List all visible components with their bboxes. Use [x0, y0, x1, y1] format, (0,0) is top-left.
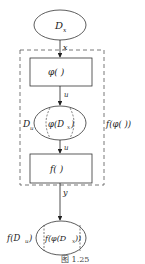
phi-dx-label: φ(D	[48, 119, 64, 129]
set-du-label: D	[22, 119, 30, 129]
f-phi-dx-label: f(φ(D	[44, 234, 67, 243]
edge-x-label: x	[63, 43, 68, 52]
f-du-label: f(D	[6, 233, 20, 243]
phi-dx-close: )	[70, 119, 74, 129]
set-du: D u φ(D x )	[22, 106, 86, 140]
f-du-close: )	[28, 233, 32, 243]
composition-diagram: D x x φ( ) u D u φ(D x ) u f( ) f(φ( )) …	[0, 0, 145, 264]
figure-caption: 图 1.25	[61, 255, 89, 264]
set-du-subscript: u	[30, 125, 34, 131]
edge-u2-label: u	[64, 144, 69, 152]
f-box: f( )	[30, 154, 92, 183]
set-dx: D x	[34, 10, 86, 40]
composite-label: f(φ( ))	[105, 119, 131, 129]
edge-u1-label: u	[64, 91, 69, 99]
phi-box-label: φ( )	[48, 67, 65, 77]
set-f-du: f(D u ) f(φ(D x ))	[6, 221, 86, 255]
set-dx-subscript: x	[63, 26, 67, 33]
set-dx-label: D	[54, 20, 63, 31]
edge-y-label: y	[62, 188, 68, 197]
phi-box: φ( )	[30, 58, 92, 86]
f-box-label: f( )	[49, 164, 64, 174]
f-phi-dx-close: ))	[74, 234, 81, 243]
